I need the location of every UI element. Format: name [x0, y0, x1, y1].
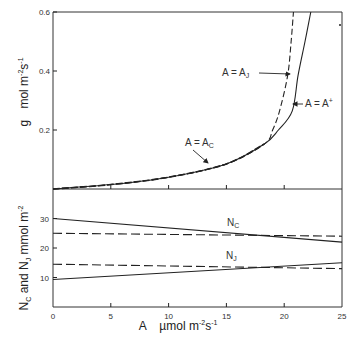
x-tick-label: 25 — [338, 312, 347, 321]
curve-aaj — [53, 12, 293, 189]
y-tick-label-bottom: 30 — [40, 215, 49, 224]
x-axis-title: A µmol m-2s-1 — [139, 319, 218, 333]
y-tick-label-bottom: 10 — [40, 274, 49, 283]
annotation-bottom: NJ — [226, 250, 237, 262]
x-axis-var: A — [139, 319, 147, 333]
annotations: A = AJA = A+A = ACNCNJ — [185, 67, 333, 262]
axis-ticks: 0.20.40.61020300510152025 — [39, 8, 347, 321]
x-tick-label: 20 — [280, 312, 289, 321]
curve-aa-plus — [53, 12, 311, 189]
y-top-var: g — [17, 120, 31, 127]
x-tick-label: 5 — [109, 312, 114, 321]
annotation-top: A = AC — [185, 137, 214, 149]
chart: 0.20.40.61020300510152025 A = AJA = A+A … — [0, 0, 355, 354]
y-axis-title-bottom: NC and NJ mmol m-2 — [17, 205, 32, 310]
curve-aac — [53, 144, 265, 189]
plot-frame — [53, 12, 342, 307]
x-axis-unit: µmol m — [159, 319, 199, 333]
y-tick-label-top: 0.4 — [39, 67, 51, 76]
top-panel-conductance — [53, 12, 311, 189]
bottom-panel-nitrogen — [53, 219, 342, 280]
x-tick-label: 15 — [222, 312, 231, 321]
y-tick-label-top: 0.6 — [39, 8, 51, 17]
y-top-unit: mol m — [17, 76, 31, 109]
edge-mark — [339, 24, 341, 26]
line-nc-dashed — [53, 233, 342, 236]
annotation-arrow — [259, 73, 290, 74]
x-tick-label: 0 — [51, 312, 56, 321]
annotation-top: A = A+ — [305, 97, 333, 109]
y-tick-label-top: 0.2 — [39, 126, 51, 135]
line-nc-solid — [53, 219, 342, 243]
annotation-bottom: NC — [227, 217, 239, 229]
annotation-arrow — [193, 150, 208, 163]
y-tick-label-bottom: 20 — [40, 244, 49, 253]
y-axis-title-top: g mol m-2s-1 — [17, 57, 31, 126]
annotation-top: A = AJ — [222, 67, 249, 79]
